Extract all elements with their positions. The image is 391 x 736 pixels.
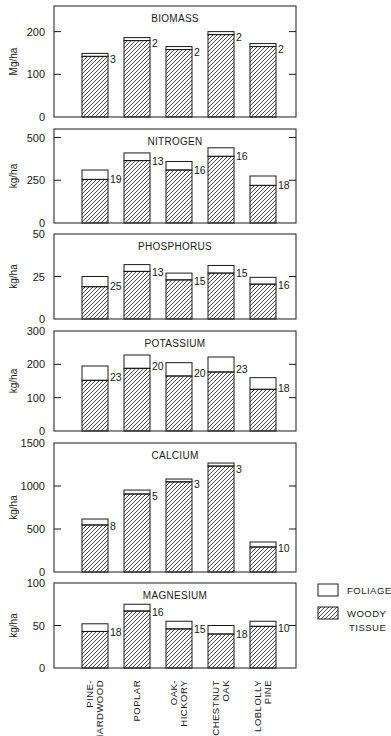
panel-nitrogen: 0250500kg/haNITROGEN1913161618 [8,129,296,229]
bar-foliage [208,265,234,273]
category-label: HARDWOOD [94,680,105,736]
bar-foliage [250,542,276,547]
bar-foliage [82,277,108,287]
bar-percent-label: 2 [152,37,158,49]
y-tick-label: 0 [39,111,45,123]
legend-label-woody-tissue: TISSUE [349,622,386,633]
bar-woody-tissue [208,273,234,319]
bar-percent-label: 15 [194,623,206,635]
bar-percent-label: 23 [110,371,122,383]
y-axis-unit-label: kg/ha [8,613,19,638]
y-axis-unit-label: Mg/ha [8,47,19,75]
y-tick-label: 1000 [21,480,45,492]
bar-foliage [166,621,192,629]
bar-percent-label: 10 [278,622,290,634]
bar-woody-tissue [208,372,234,431]
bar-woody-tissue [124,271,150,319]
bar-percent-label: 13 [152,155,164,167]
bar-woody-tissue [208,35,234,117]
bar-woody-tissue [124,494,150,572]
bar-woody-tissue [166,280,192,319]
panel-calcium: 050010001500kg/haCALCIUM853310 [8,437,296,578]
bar-percent-label: 3 [194,478,200,490]
y-tick-label: 100 [27,577,45,589]
y-tick-label: 0 [39,662,45,674]
bar-foliage [124,153,150,161]
y-tick-label: 50 [33,620,45,632]
y-tick-label: 200 [27,26,45,38]
legend-swatch-woody-tissue [318,607,338,619]
bar-woody-tissue [82,56,108,117]
bar-woody-tissue [82,525,108,572]
legend-swatch-foliage [318,584,338,596]
y-tick-label: 50 [33,228,45,240]
y-tick-label: 0 [39,425,45,437]
bar-woody-tissue [250,389,276,431]
bar-percent-label: 18 [278,382,290,394]
y-tick-label: 0 [39,313,45,325]
panel-title: NITROGEN [147,136,202,147]
y-tick-label: 200 [27,358,45,370]
bar-percent-label: 18 [278,179,290,191]
x-axis-category-labels: PINE-HARDWOODPOPLAROAK-HICKORYCHESTNUTOA… [84,680,273,736]
bar-foliage [166,161,192,170]
panel-title: BIOMASS [151,13,199,24]
y-tick-label: 25 [33,271,45,283]
bar-woody-tissue [124,41,150,117]
panel-title: PHOSPHORUS [138,241,212,252]
bar-foliage [250,378,276,390]
bar-percent-label: 16 [194,164,206,176]
bar-percent-label: 2 [278,43,284,55]
bar-woody-tissue [166,482,192,572]
bar-percent-label: 3 [236,463,242,475]
bar-foliage [166,363,192,376]
bar-percent-label: 16 [152,606,164,618]
legend-label-foliage: FOLIAGE [347,585,391,596]
y-axis-unit-label: kg/ha [8,264,19,289]
panel-potassium: 0100200300kg/haPOTASSIUM2320202318 [8,325,296,437]
bar-percent-label: 18 [110,626,122,638]
bar-percent-label: 16 [278,279,290,291]
bar-foliage [208,148,234,157]
bar-percent-label: 15 [194,275,206,287]
bar-woody-tissue [250,284,276,319]
bar-woody-tissue [166,376,192,431]
bar-woody-tissue [82,179,108,223]
bar-percent-label: 2 [194,46,200,58]
bar-percent-label: 20 [194,367,206,379]
bar-woody-tissue [250,547,276,572]
bar-percent-label: 18 [236,628,248,640]
bar-woody-tissue [82,631,108,668]
panel-title: CALCIUM [151,450,198,461]
bar-woody-tissue [166,170,192,223]
bar-foliage [250,176,276,185]
bar-foliage [208,357,234,372]
category-label: OAK [220,680,231,702]
bar-percent-label: 19 [110,173,122,185]
bar-percent-label: 2 [236,31,242,43]
bar-foliage [124,355,150,368]
bar-woody-tissue [124,368,150,431]
bar-woody-tissue [250,47,276,117]
bar-foliage [82,519,108,525]
stacked-bar-chart-panels: 0100200Mg/haBIOMASS322220250500kg/haNITR… [0,0,391,736]
bar-woody-tissue [250,185,276,223]
bar-foliage [166,273,192,280]
bar-woody-tissue [82,380,108,431]
bar-woody-tissue [208,156,234,223]
bar-foliage [124,490,150,494]
y-axis-unit-label: kg/ha [8,495,19,520]
bar-foliage [208,626,234,635]
panel-title: MAGNESIUM [143,590,207,601]
panel-title: POTASSIUM [145,338,206,349]
y-axis-unit-label: kg/ha [8,368,19,393]
bar-percent-label: 16 [236,150,248,162]
bar-percent-label: 20 [152,360,164,372]
bar-foliage [124,265,150,272]
bar-woody-tissue [208,466,234,572]
bar-percent-label: 3 [110,53,116,65]
y-tick-label: 1500 [21,437,45,449]
bar-woody-tissue [250,626,276,668]
bar-foliage [250,621,276,626]
bar-woody-tissue [208,634,234,668]
